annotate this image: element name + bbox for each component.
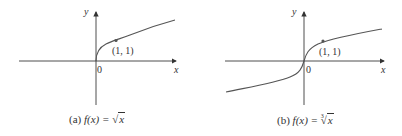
figure-canvas: y x 0 (1, 1) y x 0 (1, 1) [0,0,402,136]
y-axis-label: y [291,6,297,17]
origin-label: 0 [97,64,102,75]
sqrt-symbol: √x [112,113,125,125]
y-axis-label: y [83,6,89,17]
panel-b-cbrt: y x 0 (1, 1) [225,6,386,105]
point-1-1 [321,39,324,42]
caption-a-label: (a) [69,113,81,125]
panel-a-sqrt: y x 0 (1, 1) [19,6,179,105]
point-label: (1, 1) [112,45,134,57]
caption-a-func: f(x) = [84,113,112,125]
sqrt-curve [96,20,175,61]
caption-b: (b) f(x) = 3√x [277,113,334,126]
x-axis-label: x [380,64,386,75]
x-axis-label: x [173,64,179,75]
caption-a: (a) f(x) = √x [69,113,125,125]
point-label: (1, 1) [319,46,341,58]
caption-b-func: f(x) = [293,114,321,126]
caption-b-label: (b) [277,114,290,126]
origin-label: 0 [306,64,311,75]
cbrt-symbol: 3√x [321,113,334,126]
point-1-1 [114,39,117,42]
